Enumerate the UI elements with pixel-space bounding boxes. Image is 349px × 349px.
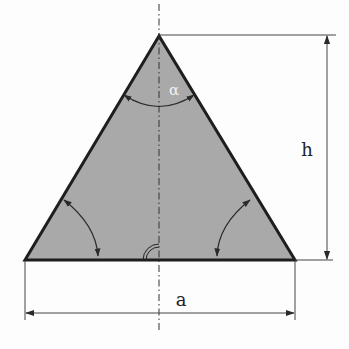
triangle-shape	[25, 36, 295, 260]
angle-label-alpha: α	[169, 81, 179, 99]
base-label: a	[176, 289, 187, 310]
height-label: h	[301, 139, 313, 160]
diagram-svg: α h a	[0, 0, 349, 349]
triangle-diagram: α h a	[0, 0, 349, 349]
